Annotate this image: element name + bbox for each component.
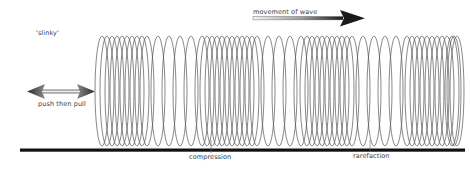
coil-loop [184,36,198,146]
slinky-coils [95,36,464,146]
ground-line [20,149,465,152]
coil-loop [378,36,392,146]
coil-loop [367,36,381,146]
compression-label: compression [189,153,231,161]
coil-loop [272,36,286,146]
movement-of-wave-label: movement of wave [253,8,317,16]
push-pull-arrow-icon [27,84,95,99]
rarefaction-label: rarefaction [353,152,390,160]
coil-loop [162,36,176,146]
coil-loop [389,36,403,146]
diagram-graphic [0,0,470,170]
coil-loop [151,36,165,146]
coil-loop [356,36,370,146]
slinky-wave-diagram: 'slinky' movement of wave push then pull… [0,0,470,170]
slinky-label: 'slinky' [36,29,59,37]
push-then-pull-label: push then pull [38,100,86,108]
coil-loop [283,36,297,146]
coil-loop [294,36,308,146]
coil-loop [173,36,187,146]
coil-loop [261,36,275,146]
